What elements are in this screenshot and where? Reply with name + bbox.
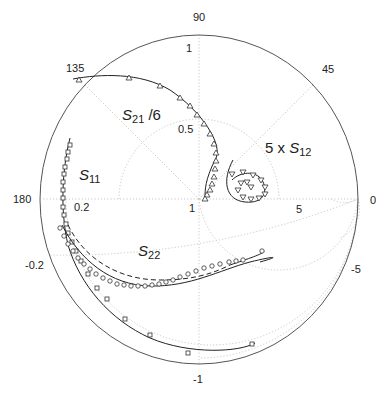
s11-series [61, 138, 255, 355]
resistance-label-1: 1 [189, 202, 195, 214]
angle-label-180: 180 [13, 193, 31, 205]
angle-label-90: 90 [193, 11, 205, 23]
s12-label: 5 x S12 [265, 139, 311, 158]
smith-chart: 90 45 0 135 180 1 0.5 0.2 1 5 -0.2 -5 -1… [0, 0, 388, 395]
reactance-label-neg0.2: -0.2 [25, 259, 44, 271]
s12-series [227, 160, 268, 202]
resistance-label-0.2: 0.2 [74, 201, 89, 213]
s21-label: S21 /6 [122, 106, 161, 125]
radius-label-1: 1 [186, 42, 192, 54]
reactance-label-neg5: -5 [351, 263, 361, 275]
resistance-label-5: 5 [296, 203, 302, 215]
s22-series [58, 225, 273, 288]
reactance-label-neg1: -1 [193, 373, 203, 385]
s11-label: S11 [79, 166, 100, 185]
angle-label-45: 45 [322, 63, 334, 75]
radius-label-0.5: 0.5 [178, 123, 193, 135]
angle-label-135: 135 [66, 62, 84, 74]
angle-label-0: 0 [370, 194, 376, 206]
smith-grid [50, 199, 359, 364]
s22-label: S22 [138, 242, 160, 261]
